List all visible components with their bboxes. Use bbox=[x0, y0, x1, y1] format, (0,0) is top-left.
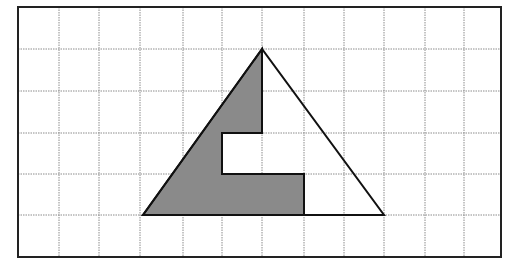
grid-triangle-diagram bbox=[0, 0, 519, 273]
